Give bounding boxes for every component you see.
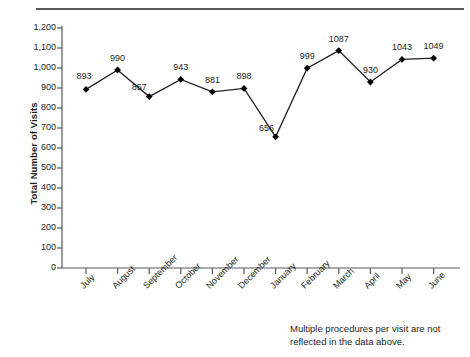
data-point-label: 656	[253, 124, 281, 133]
data-point-label: 1087	[325, 35, 353, 44]
chart-svg	[0, 0, 470, 357]
data-point-label: 881	[198, 76, 226, 85]
chart-plot-area: Total Number of Visits 01002003004005006…	[0, 0, 470, 357]
data-point-label: 943	[167, 63, 195, 72]
data-point-label: 1043	[388, 43, 416, 52]
data-point-label: 893	[70, 72, 98, 81]
y-axis-ticks	[57, 28, 62, 268]
data-point-marker	[430, 55, 437, 62]
y-axis	[57, 26, 62, 268]
data-point-marker	[177, 76, 184, 83]
data-point-label: 990	[104, 54, 132, 63]
data-point-label: 999	[293, 52, 321, 61]
data-point-marker	[241, 85, 248, 92]
footnote-line-1: Multiple procedures per visit are not	[290, 322, 470, 335]
data-point-label: 1049	[420, 42, 448, 51]
data-point-marker	[272, 133, 279, 140]
footnote-line-2: reflected in the data above.	[290, 335, 470, 348]
data-point-label: 857	[125, 83, 153, 92]
data-point-marker	[83, 86, 90, 93]
data-point-label: 930	[356, 66, 384, 75]
figure-container: Total Number of Visits 01002003004005006…	[0, 0, 470, 357]
footnote: Multiple procedures per visit are not re…	[290, 322, 470, 348]
data-point-label: 898	[230, 72, 258, 81]
data-point-marker	[209, 88, 216, 95]
data-point-marker	[304, 65, 311, 72]
